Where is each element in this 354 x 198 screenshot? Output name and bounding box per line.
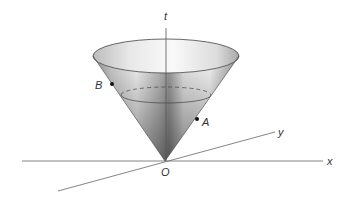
point-b — [110, 82, 114, 86]
light-cone-diagram: t x y O A B — [0, 0, 354, 198]
label-t: t — [164, 10, 168, 22]
point-a — [195, 117, 199, 121]
label-x: x — [326, 155, 333, 167]
label-y: y — [277, 126, 285, 138]
label-origin: O — [161, 166, 170, 178]
label-a: A — [201, 116, 209, 128]
label-b: B — [95, 79, 102, 91]
